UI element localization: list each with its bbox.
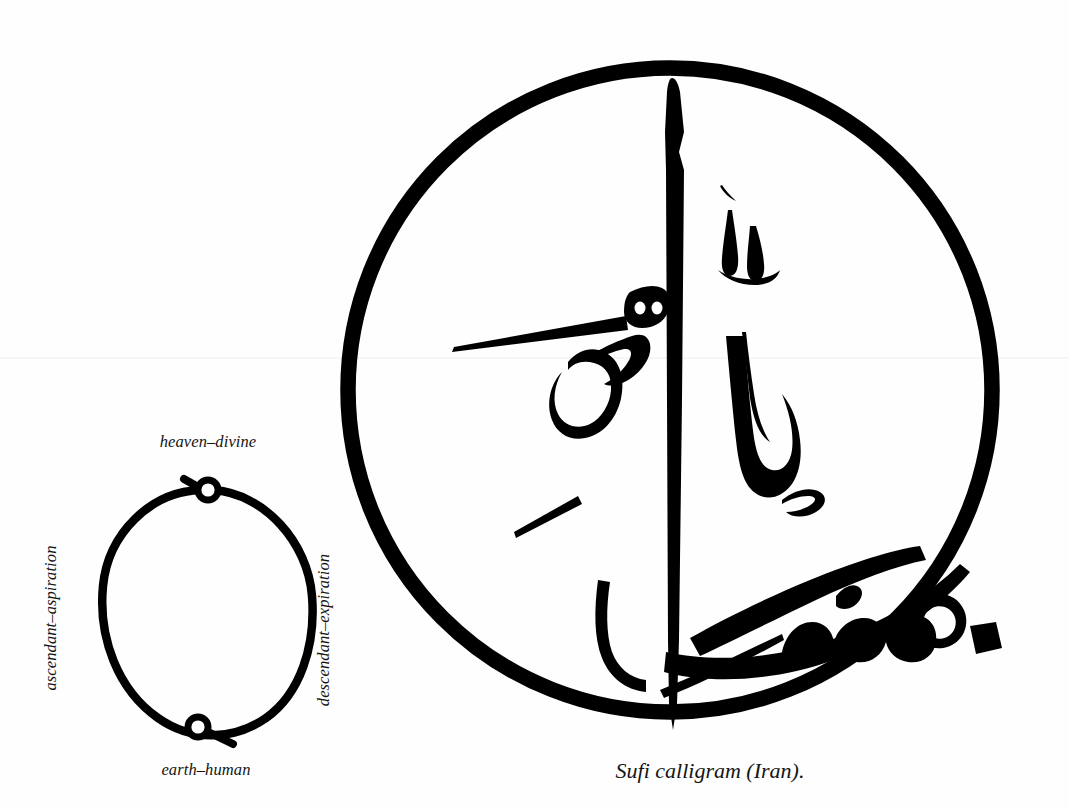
allah-lam-bowl <box>726 336 801 498</box>
diagram-ring-path <box>102 490 312 735</box>
bism-meem-head <box>912 594 967 649</box>
allah-ha-letter <box>549 335 650 439</box>
bism-descender-hook <box>595 580 646 692</box>
allah-ha-header <box>624 286 670 328</box>
diagram-label-ascendant-aspiration: ascendant–aspiration <box>41 523 61 713</box>
bismillah-calligram-svg <box>330 40 1030 770</box>
bism-ba-dot <box>970 622 1002 654</box>
figure-caption: Sufi calligram (Iran). <box>430 758 990 784</box>
bottom-node-hole <box>191 720 204 733</box>
allah-alif-stroke <box>665 78 684 730</box>
allah-entry-stroke <box>452 316 628 352</box>
allah-crescent-mark <box>782 489 825 516</box>
bismillah-calligram <box>330 40 1030 770</box>
breath-circle-diagram: heaven–divine earth–human ascendant–aspi… <box>28 420 348 800</box>
diagram-label-earth-human: earth–human <box>136 760 276 780</box>
diagram-label-heaven-divine: heaven–divine <box>138 432 278 452</box>
breath-circle-svg <box>88 470 328 750</box>
allah-shadda-mark <box>718 185 780 285</box>
allah-lower-dash <box>514 496 582 538</box>
top-node-hole <box>201 483 214 496</box>
calligram-word-allah <box>452 78 825 730</box>
